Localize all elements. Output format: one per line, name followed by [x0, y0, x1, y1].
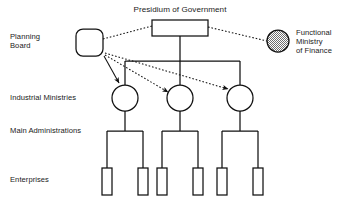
- enterprise-node-5[interactable]: [217, 168, 227, 195]
- org-chart-diagram: Presidium of Government: [0, 0, 353, 206]
- enterprise-node-1[interactable]: [102, 168, 112, 195]
- enterprise-node-2[interactable]: [138, 168, 148, 195]
- arrow-planning-to-ministry-3: [105, 53, 228, 89]
- functional-ministry-label-line3: of Finance: [296, 46, 332, 55]
- functional-ministry-label-line2: Ministry: [296, 37, 323, 46]
- presidium-box[interactable]: [152, 20, 208, 36]
- presidium-title: Presidium of Government: [134, 5, 228, 14]
- industrial-ministry-node-2[interactable]: [167, 85, 193, 111]
- planning-board-node[interactable]: [76, 29, 103, 56]
- industrial-ministry-node-1[interactable]: [112, 85, 138, 111]
- link-planning-to-presidium: [103, 26, 152, 39]
- row-label-enterprises: Enterprises: [10, 175, 49, 184]
- row-label-industrial-ministries: Industrial Ministries: [10, 93, 76, 102]
- functional-ministry-label-line1: Functional: [296, 28, 332, 37]
- planning-board-label-line2: Board: [10, 41, 31, 50]
- row-label-main-administrations: Main Administrations: [10, 126, 81, 135]
- enterprise-node-3[interactable]: [157, 168, 167, 195]
- link-presidium-to-functional-ministry: [208, 27, 267, 41]
- diagram-canvas: Presidium of Government: [0, 0, 353, 206]
- enterprise-node-6[interactable]: [253, 168, 263, 195]
- enterprise-node-4[interactable]: [193, 168, 203, 195]
- arrow-planning-to-ministry-1: [104, 56, 119, 83]
- functional-ministry-node[interactable]: [267, 30, 289, 52]
- industrial-ministry-node-3[interactable]: [227, 85, 253, 111]
- planning-board-label-line1: Planning: [10, 32, 40, 41]
